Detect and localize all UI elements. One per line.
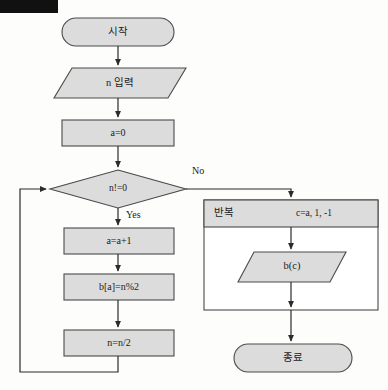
shape-end[interactable] bbox=[234, 344, 352, 372]
shape-store-bit[interactable] bbox=[64, 274, 174, 300]
shape-init-a[interactable] bbox=[62, 120, 174, 146]
shape-decision[interactable] bbox=[50, 170, 186, 208]
shape-start[interactable] bbox=[62, 18, 174, 46]
shape-loop-header[interactable] bbox=[204, 200, 378, 227]
flowchart-svg bbox=[0, 0, 388, 390]
shape-layer bbox=[50, 18, 378, 372]
shape-halve-n[interactable] bbox=[64, 330, 174, 356]
shape-input-n[interactable] bbox=[54, 68, 186, 98]
shape-incr-a[interactable] bbox=[64, 228, 174, 254]
flowchart-canvas: 시작 n 입력 a=0 n!=0 a=a+1 b[a]=n%2 n=n/2 반복… bbox=[0, 0, 388, 390]
connector-decision-no bbox=[186, 189, 291, 197]
shape-output-bc[interactable] bbox=[238, 252, 346, 282]
